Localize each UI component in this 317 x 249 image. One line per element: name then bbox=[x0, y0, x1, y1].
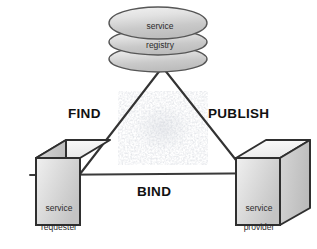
registry-disk-top bbox=[109, 7, 207, 39]
soa-triangle-diagram: service registry service requester servi… bbox=[0, 0, 317, 249]
node-service-requester[interactable] bbox=[36, 140, 110, 225]
node-service-provider[interactable] bbox=[236, 140, 310, 225]
center-texture-decoration bbox=[130, 101, 196, 155]
provider-front-face bbox=[236, 158, 280, 225]
diagram-canvas bbox=[0, 0, 317, 249]
node-service-registry[interactable] bbox=[109, 7, 207, 72]
requester-front-face bbox=[36, 158, 80, 225]
